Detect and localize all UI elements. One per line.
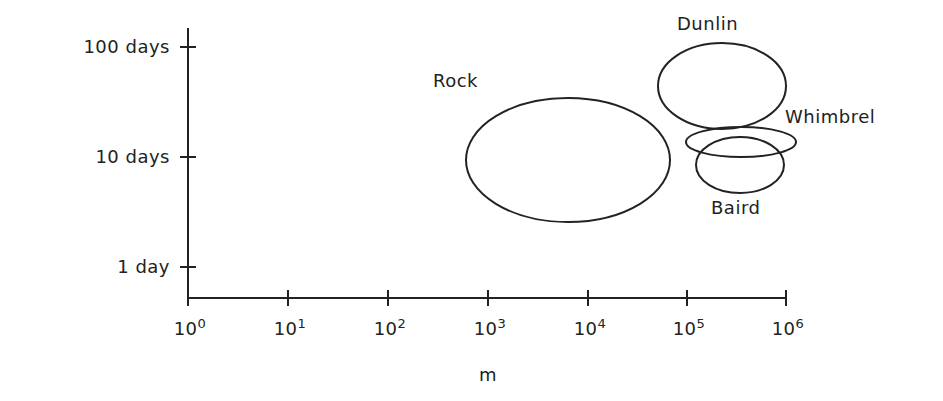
- y-tick-label-1: 1 day: [0, 256, 170, 277]
- x-tick-label-4: 104: [574, 318, 607, 339]
- x-tick-label-3: 103: [474, 318, 507, 339]
- ellipse-rock: [466, 98, 670, 222]
- ellipse-dunlin: [658, 43, 786, 129]
- x-tick-label-2: 102: [374, 318, 407, 339]
- label-rock: Rock: [433, 70, 478, 91]
- label-dunlin: Dunlin: [677, 13, 738, 34]
- x-tick-label-0: 100: [174, 318, 207, 339]
- chart-canvas: [0, 0, 943, 401]
- y-tick-label-10: 10 days: [0, 146, 170, 167]
- x-tick-label-1: 101: [274, 318, 307, 339]
- x-tick-label-5: 105: [673, 318, 706, 339]
- y-tick-label-100: 100 days: [0, 36, 170, 57]
- ellipse-baird: [696, 137, 784, 193]
- x-axis-title: m: [479, 364, 497, 385]
- x-tick-label-6: 106: [772, 318, 805, 339]
- label-whimbrel: Whimbrel: [785, 106, 875, 127]
- label-baird: Baird: [711, 197, 760, 218]
